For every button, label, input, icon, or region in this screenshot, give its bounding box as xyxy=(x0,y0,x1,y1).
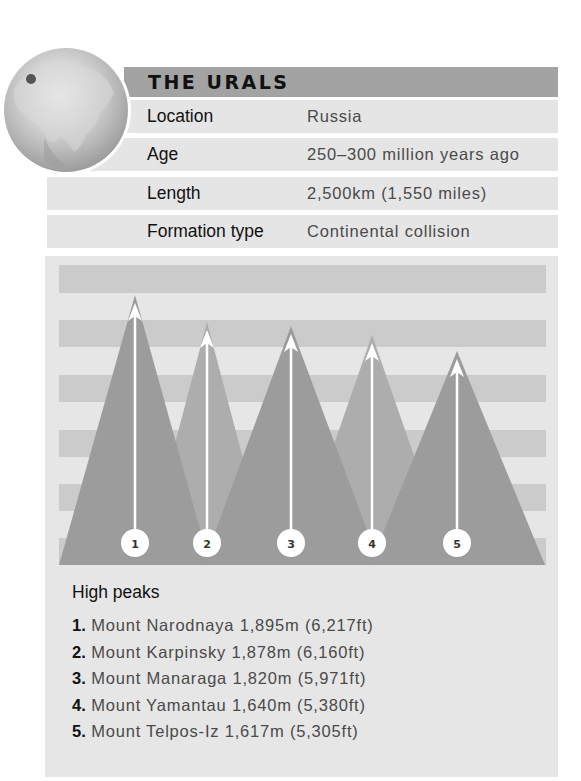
list-item: 5. Mount Telpos-Iz 1,617m (5,305ft) xyxy=(72,722,374,749)
svg-text:4: 4 xyxy=(368,538,376,551)
svg-text:3: 3 xyxy=(287,538,295,551)
fact-label: Formation type xyxy=(147,221,264,242)
fact-row-length: Length 2,500km (1,550 miles) xyxy=(47,177,558,210)
list-item: 2. Mount Karpinsky 1,878m (6,160ft) xyxy=(72,643,374,670)
page-title: THE URALS xyxy=(148,71,290,93)
fact-value: 2,500km (1,550 miles) xyxy=(307,184,487,203)
list-item: 3. Mount Manaraga 1,820m (5,971ft) xyxy=(72,669,374,696)
svg-text:5: 5 xyxy=(453,538,461,551)
globe-icon xyxy=(1,45,131,175)
peaks-diagram: 12345 xyxy=(45,256,558,586)
title-bar: THE URALS xyxy=(124,67,558,97)
svg-text:2: 2 xyxy=(203,538,211,551)
list-item: 1. Mount Narodnaya 1,895m (6,217ft) xyxy=(72,616,374,643)
high-peaks-list: 1. Mount Narodnaya 1,895m (6,217ft) 2. M… xyxy=(72,616,374,749)
svg-text:1: 1 xyxy=(131,538,139,551)
fact-row-formation: Formation type Continental collision xyxy=(47,215,558,248)
list-item: 4. Mount Yamantau 1,640m (5,380ft) xyxy=(72,696,374,723)
high-peaks-heading: High peaks xyxy=(72,582,160,603)
fact-value: 250–300 million years ago xyxy=(307,145,520,164)
fact-value: Continental collision xyxy=(307,222,471,241)
fact-label: Age xyxy=(147,144,178,165)
location-marker-icon xyxy=(26,74,36,84)
fact-label: Length xyxy=(147,183,201,204)
fact-label: Location xyxy=(147,106,213,127)
fact-value: Russia xyxy=(307,107,362,126)
